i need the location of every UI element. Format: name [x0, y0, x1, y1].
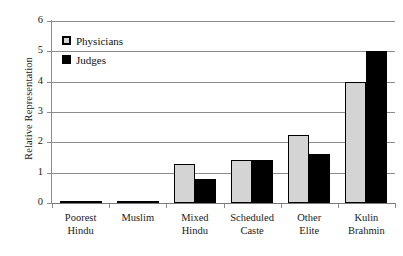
- gridline-3: [52, 112, 395, 113]
- bar-physicians-scheduled-caste: [231, 160, 252, 203]
- gridline-1: [52, 173, 395, 174]
- x-category-label-other-elite: OtherElite: [281, 212, 338, 237]
- category-label-line1: Other: [297, 212, 321, 223]
- x-category-label-muslim: Muslim: [109, 212, 166, 225]
- category-label-line2: Elite: [281, 225, 338, 238]
- legend-swatch-judges-icon: [62, 55, 71, 64]
- category-label-line1: Muslim: [121, 212, 154, 223]
- bar-judges-poorest-hindu: [81, 201, 102, 203]
- bar-chart: Relative Representation 0123456 PoorestH…: [0, 0, 403, 256]
- category-label-line2: Hindu: [52, 225, 109, 238]
- bar-judges-other-elite: [309, 154, 330, 203]
- x-category-label-poorest-hindu: PoorestHindu: [52, 212, 109, 237]
- category-label-line2: Brahmin: [338, 225, 395, 238]
- legend-label-physicians: Physicians: [76, 35, 123, 47]
- gridline-4: [52, 82, 395, 83]
- bar-physicians-mixed-hindu: [174, 164, 195, 203]
- bar-physicians-poorest-hindu: [60, 201, 81, 203]
- gridline-2: [52, 142, 395, 143]
- gridline-6: [52, 21, 395, 22]
- y-tick-label-0: 0: [25, 196, 43, 207]
- legend-entry-physicians: Physicians: [62, 32, 123, 49]
- legend-swatch-physicians-icon: [62, 36, 71, 45]
- bar-judges-scheduled-caste: [252, 160, 273, 203]
- y-tick-label-3: 3: [25, 105, 43, 116]
- x-category-label-kulin-brahmin: KulinBrahmin: [338, 212, 395, 237]
- x-category-label-mixed-hindu: MixedHindu: [166, 212, 223, 237]
- bar-physicians-kulin-brahmin: [345, 82, 366, 203]
- x-category-label-scheduled-caste: ScheduledCaste: [224, 212, 281, 237]
- chart-legend: Physicians Judges: [62, 32, 123, 70]
- y-tick-label-4: 4: [25, 75, 43, 86]
- bar-judges-kulin-brahmin: [366, 51, 387, 203]
- category-label-line1: Scheduled: [230, 212, 274, 223]
- category-label-line2: Caste: [224, 225, 281, 238]
- y-tick-label-2: 2: [25, 135, 43, 146]
- gridline-0: [52, 203, 395, 204]
- category-label-line1: Poorest: [65, 212, 97, 223]
- y-tick-label-5: 5: [25, 44, 43, 55]
- x-tick-mark-6: [395, 203, 396, 208]
- y-tick-label-6: 6: [25, 14, 43, 25]
- bar-physicians-muslim: [117, 201, 138, 203]
- bar-judges-mixed-hindu: [195, 179, 216, 203]
- legend-entry-judges: Judges: [62, 51, 123, 68]
- y-tick-label-1: 1: [25, 166, 43, 177]
- bar-judges-muslim: [138, 201, 159, 203]
- legend-label-judges: Judges: [76, 54, 106, 66]
- category-label-line2: Hindu: [166, 225, 223, 238]
- category-label-line1: Kulin: [354, 212, 378, 223]
- category-label-line1: Mixed: [181, 212, 208, 223]
- bar-physicians-other-elite: [288, 135, 309, 203]
